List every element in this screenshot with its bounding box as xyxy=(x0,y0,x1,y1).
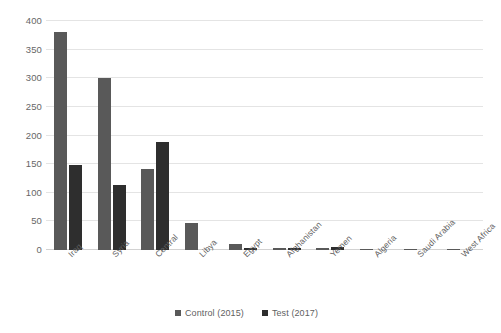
legend-swatch-icon xyxy=(262,310,268,316)
y-tick-label: 0 xyxy=(2,245,42,255)
x-axis: IraqSyriaCentralLibyaEgyptAfghanistanYem… xyxy=(46,252,483,310)
legend-label: Test (2017) xyxy=(272,308,318,318)
legend-item: Control (2015) xyxy=(175,308,244,318)
bar xyxy=(447,249,460,251)
bar xyxy=(404,249,417,251)
bar xyxy=(316,248,329,250)
bar xyxy=(273,248,286,250)
y-axis: 050100150200250300350400 xyxy=(0,21,42,250)
bar-group xyxy=(46,21,90,250)
y-tick-label: 350 xyxy=(2,45,42,55)
y-tick-label: 50 xyxy=(2,216,42,226)
y-tick-label: 300 xyxy=(2,73,42,83)
y-tick-label: 200 xyxy=(2,131,42,141)
legend-swatch-icon xyxy=(175,310,181,316)
legend-label: Control (2015) xyxy=(185,308,244,318)
bar xyxy=(229,244,242,250)
bar xyxy=(360,249,373,251)
bar xyxy=(54,32,67,250)
y-tick-label: 100 xyxy=(2,188,42,198)
y-tick-label: 150 xyxy=(2,159,42,169)
y-tick-label: 400 xyxy=(2,16,42,26)
chart-legend: Control (2015)Test (2017) xyxy=(0,308,493,318)
legend-item: Test (2017) xyxy=(262,308,318,318)
y-tick-label: 250 xyxy=(2,102,42,112)
